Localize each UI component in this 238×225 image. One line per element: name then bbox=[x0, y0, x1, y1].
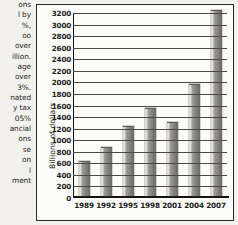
gridline bbox=[73, 82, 227, 83]
y-tick-label: 1400 bbox=[52, 113, 71, 122]
body-text-column: onsl by%,oooverillion.ageover3%.natedy t… bbox=[0, 0, 33, 225]
bar-2001 bbox=[167, 122, 178, 196]
bar-1992 bbox=[101, 147, 112, 196]
body-text-line: l by bbox=[0, 10, 33, 20]
body-text-line: l bbox=[0, 166, 33, 176]
x-tick-label: 2007 bbox=[205, 201, 227, 210]
body-text-line: over bbox=[0, 41, 33, 51]
y-axis-tick-labels: 3200300028002600240022002000180016001400… bbox=[45, 13, 71, 198]
body-text-line: age bbox=[0, 62, 33, 72]
body-text-line: ment bbox=[0, 176, 33, 186]
body-text-line: ons bbox=[0, 0, 33, 10]
body-text-line: y tax bbox=[0, 103, 33, 113]
y-tick-label: 600 bbox=[57, 159, 71, 168]
gridline bbox=[73, 152, 227, 153]
y-tick-label: 1600 bbox=[52, 101, 71, 110]
y-tick-label: 200 bbox=[57, 182, 71, 191]
y-tick-label: 2800 bbox=[52, 32, 71, 41]
body-text-line: ancial bbox=[0, 124, 33, 134]
body-text-line: on bbox=[0, 155, 33, 165]
body-text-line: 3%. bbox=[0, 83, 33, 93]
scanned-page: onsl by%,oooverillion.ageover3%.natedy t… bbox=[0, 0, 238, 225]
body-text-line: ons bbox=[0, 134, 33, 144]
bar-2007 bbox=[211, 10, 222, 196]
y-tick-label: 2000 bbox=[52, 78, 71, 87]
body-text-line: 05% bbox=[0, 114, 33, 124]
x-tick-label: 2004 bbox=[183, 201, 205, 210]
body-text-line: nated bbox=[0, 93, 33, 103]
y-tick-label: 1200 bbox=[52, 124, 71, 133]
x-axis-line bbox=[73, 196, 229, 198]
gridline bbox=[73, 117, 227, 118]
body-text-line: %, bbox=[0, 21, 33, 31]
x-tick-label: 1992 bbox=[95, 201, 117, 210]
gridline bbox=[73, 175, 227, 176]
body-text-line: se bbox=[0, 145, 33, 155]
body-text-line: over bbox=[0, 72, 33, 82]
body-text-line: oo bbox=[0, 31, 33, 41]
gridline bbox=[73, 94, 227, 95]
y-tick-label: 1800 bbox=[52, 89, 71, 98]
y-tick-label: 2600 bbox=[52, 43, 71, 52]
gridline bbox=[73, 13, 227, 14]
gridline bbox=[73, 106, 227, 107]
gridline bbox=[73, 59, 227, 60]
x-tick-label: 1998 bbox=[139, 201, 161, 210]
gridline bbox=[73, 129, 227, 130]
gridline bbox=[73, 186, 227, 187]
gridline bbox=[73, 163, 227, 164]
x-tick-label: 1989 bbox=[73, 201, 95, 210]
gridline bbox=[73, 48, 227, 49]
y-tick-label: 2200 bbox=[52, 66, 71, 75]
gridline bbox=[73, 140, 227, 141]
chart-plot-wrapper: Billions of dollars 32003000280026002400… bbox=[37, 5, 233, 220]
x-tick-label: 1995 bbox=[117, 201, 139, 210]
x-tick-label: 2001 bbox=[161, 201, 183, 210]
body-text-line: illion. bbox=[0, 52, 33, 62]
y-tick-label: 400 bbox=[57, 170, 71, 179]
gridline bbox=[73, 25, 227, 26]
y-tick-label: 800 bbox=[57, 147, 71, 156]
y-tick-label: 1000 bbox=[52, 136, 71, 145]
bar-1989 bbox=[79, 161, 90, 197]
gridline bbox=[73, 36, 227, 37]
y-tick-label: 2400 bbox=[52, 55, 71, 64]
y-tick-label: 3000 bbox=[52, 20, 71, 29]
gridline bbox=[73, 71, 227, 72]
plot-area bbox=[73, 13, 227, 198]
chart-frame: Billions of dollars 32003000280026002400… bbox=[36, 4, 234, 221]
y-tick-label: 3200 bbox=[52, 9, 71, 18]
x-axis-tick-labels: 1989199219951998200120042007 bbox=[73, 201, 227, 210]
y-tick-label: 0 bbox=[66, 194, 71, 203]
